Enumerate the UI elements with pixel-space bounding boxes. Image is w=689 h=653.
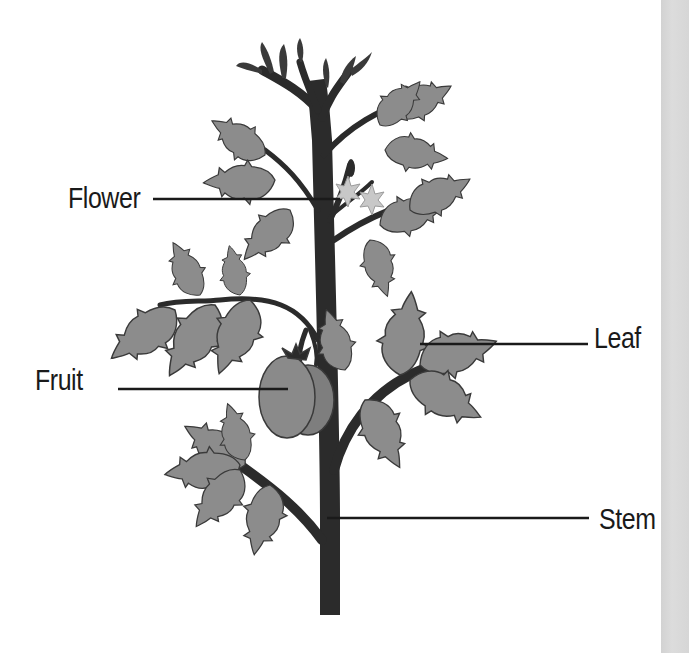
plant-illustration <box>0 0 661 653</box>
flower-label: Flower <box>68 184 140 213</box>
page-edge-strip <box>661 0 689 653</box>
fruit-label: Fruit <box>35 366 83 395</box>
diagram-canvas: Flower Fruit Leaf Stem <box>0 0 661 653</box>
stem-label: Stem <box>599 505 655 534</box>
leaves <box>98 67 503 560</box>
leaf-label: Leaf <box>594 324 641 353</box>
